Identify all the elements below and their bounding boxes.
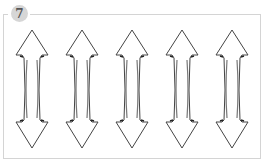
double-arrow-icon: [116, 30, 148, 148]
double-arrows-illustration: [0, 0, 268, 162]
double-arrow-icon: [166, 30, 198, 148]
double-arrow-icon: [16, 30, 48, 148]
double-arrow-icon: [66, 30, 98, 148]
double-arrow-icon: [216, 30, 248, 148]
